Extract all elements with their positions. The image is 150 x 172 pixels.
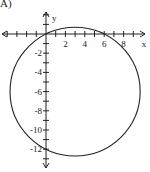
y-axis-label: y: [52, 13, 57, 23]
coordinate-plot: 2468-2-4-6-8-10-12xy: [0, 0, 150, 172]
y-tick-label: -6: [35, 87, 43, 97]
x-tick-label: 4: [83, 39, 88, 49]
y-tick-label: -4: [35, 67, 43, 77]
x-axis-label: x: [142, 39, 147, 49]
y-tick-label: -10: [30, 125, 42, 135]
y-tick-label: -2: [35, 48, 43, 58]
y-tick-label: -8: [35, 106, 43, 116]
x-tick-label: 2: [63, 39, 68, 49]
x-tick-label: 6: [102, 39, 107, 49]
